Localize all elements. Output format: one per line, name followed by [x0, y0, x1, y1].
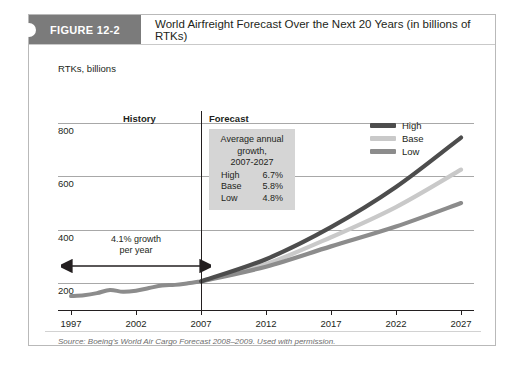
legend-swatch-high: [370, 123, 396, 128]
figure-container: FIGURE 12-2 World Airfreight Forecast Ov…: [28, 14, 496, 346]
legend-label-low: Low: [402, 146, 419, 157]
x-tick-1997: [71, 311, 72, 315]
legend-item-base[interactable]: Base: [370, 132, 424, 145]
growth-box-line2: growth,: [218, 146, 286, 158]
history-growth-line2: per year: [76, 245, 196, 256]
history-growth-arrow-icon: [61, 259, 211, 273]
chart-plot-area: RTKs, billions 200400600800 History Fore…: [29, 45, 495, 345]
growth-row-high: High6.7%: [221, 170, 283, 182]
x-tick-label-2017: 2017: [320, 318, 341, 329]
growth-row-base: Base5.8%: [221, 181, 283, 193]
x-tick-2027: [461, 311, 462, 315]
legend-item-high[interactable]: High: [370, 119, 424, 132]
legend-label-high: High: [402, 120, 422, 131]
forecast-section-label: Forecast: [209, 113, 249, 124]
growth-row-value: 5.8%: [262, 181, 283, 193]
history-section-label: History: [123, 113, 156, 124]
x-tick-label-2007: 2007: [190, 318, 211, 329]
figure-header: FIGURE 12-2 World Airfreight Forecast Ov…: [29, 15, 495, 45]
x-tick-label-1997: 1997: [60, 318, 81, 329]
tag-notch-decoration: [22, 23, 36, 37]
growth-row-value: 4.8%: [262, 193, 283, 205]
legend-label-base: Base: [402, 133, 424, 144]
growth-box-rows: High6.7%Base5.8%Low4.8%: [218, 170, 286, 205]
growth-box-line3: 2007-2027: [218, 157, 286, 169]
chart-legend: HighBaseLow: [370, 119, 424, 158]
history-growth-line1: 4.1% growth: [76, 234, 196, 245]
figure-title: World Airfreight Forecast Over the Next …: [141, 15, 495, 44]
figure-number-label: FIGURE 12-2: [50, 24, 120, 36]
growth-row-value: 6.7%: [262, 170, 283, 182]
x-tick-label-2012: 2012: [255, 318, 276, 329]
x-tick-2022: [396, 311, 397, 315]
growth-row-name: Base: [221, 181, 242, 193]
growth-box-line1: Average annual: [218, 134, 286, 146]
x-tick-2017: [331, 311, 332, 315]
x-tick-label-2027: 2027: [450, 318, 471, 329]
figure-number-tag: FIGURE 12-2: [29, 15, 141, 44]
forecast-divider-line: [201, 111, 202, 310]
figure-title-text: World Airfreight Forecast Over the Next …: [155, 18, 495, 42]
growth-row-name: Low: [221, 193, 238, 205]
x-tick-2002: [136, 311, 137, 315]
history-growth-annotation: 4.1% growth per year: [76, 234, 196, 256]
x-tick-label-2002: 2002: [125, 318, 146, 329]
source-note: Source: Boeing's World Air Cargo Forecas…: [58, 337, 335, 346]
x-tick-2012: [266, 311, 267, 315]
source-divider: [45, 331, 481, 332]
growth-row-low: Low4.8%: [221, 193, 283, 205]
legend-item-low[interactable]: Low: [370, 145, 424, 158]
legend-swatch-low: [370, 149, 396, 154]
history-line: [71, 281, 201, 296]
growth-row-name: High: [221, 170, 240, 182]
x-tick-2007: [201, 311, 202, 315]
x-tick-label-2022: 2022: [385, 318, 406, 329]
legend-swatch-base: [370, 136, 396, 141]
growth-annotation-box: Average annual growth, 2007-2027 High6.7…: [209, 129, 295, 210]
